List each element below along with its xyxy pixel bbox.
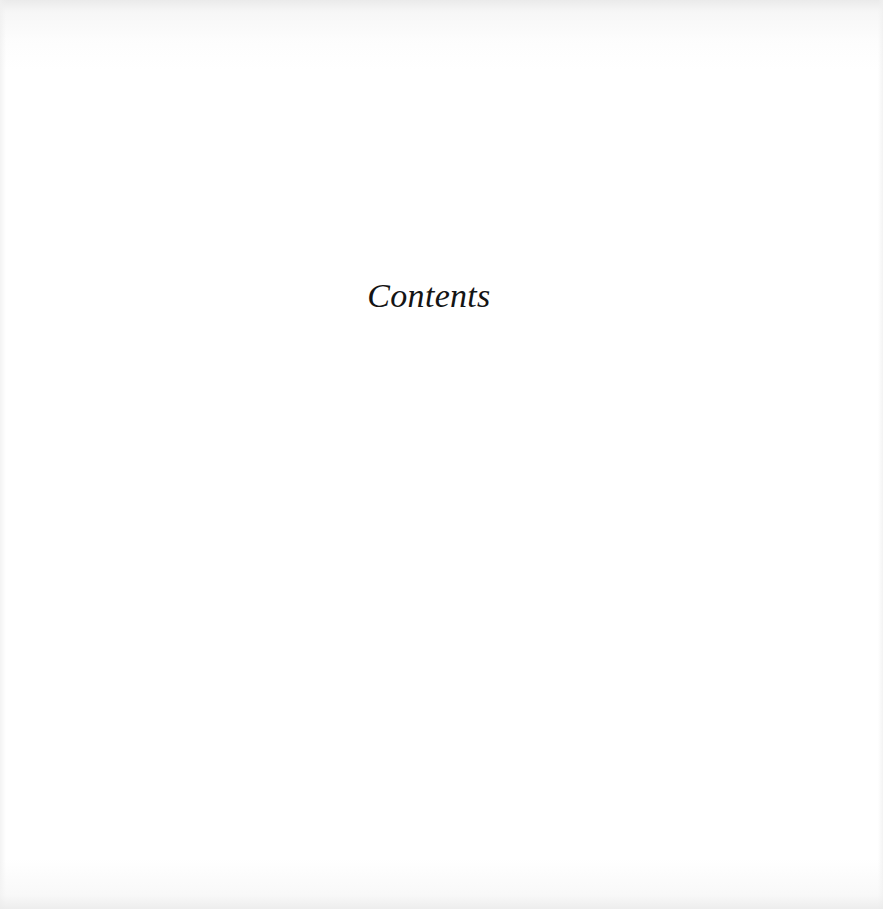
scan-shadow-left	[0, 0, 6, 909]
scan-shadow-right	[878, 0, 883, 909]
page-title: Contents	[0, 274, 858, 318]
scan-shadow-top	[0, 0, 883, 70]
scan-shadow-bottom	[0, 859, 883, 909]
book-page: Contents	[0, 0, 883, 909]
